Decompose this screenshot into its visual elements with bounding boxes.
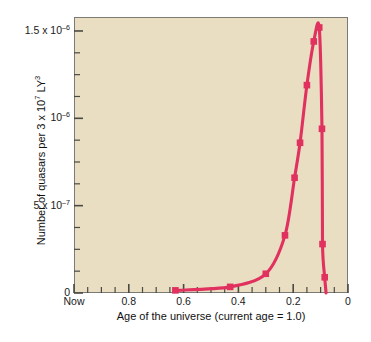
data-point-marker: [319, 241, 326, 248]
data-point-marker: [319, 126, 326, 133]
data-point-marker: [316, 24, 323, 31]
plot-svg: [0, 0, 371, 342]
data-point-marker: [172, 287, 179, 294]
quasar-density-curve: [175, 23, 326, 293]
data-point-marker: [304, 82, 311, 89]
quasar-density-figure: FIGURE 26-18 The Quasar as a Distant Lig…: [0, 0, 371, 342]
data-point-marker: [291, 174, 298, 181]
data-point-marker: [282, 232, 289, 239]
data-point-marker: [263, 270, 270, 277]
data-point-marker: [310, 38, 317, 45]
data-point-marker: [321, 274, 328, 281]
data-point-marker: [227, 284, 234, 291]
y-axis-ticks: [74, 31, 83, 293]
data-point-marker: [297, 139, 304, 146]
quasar-density-markers: [172, 24, 328, 294]
